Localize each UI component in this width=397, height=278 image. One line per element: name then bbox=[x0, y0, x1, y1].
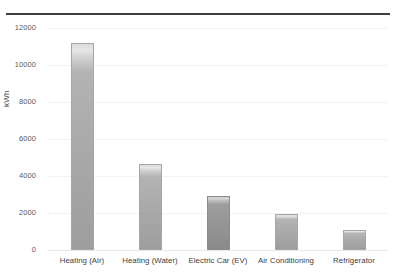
x-axis-category-labels: Heating (Air)Heating (Water)Electric Car… bbox=[48, 256, 388, 274]
bar-1 bbox=[71, 43, 94, 250]
y-tick-label: 2000 bbox=[0, 209, 36, 217]
y-tick-label: 0 bbox=[0, 246, 36, 254]
x-tick-label: Electric Car (EV) bbox=[184, 256, 252, 274]
bar-2 bbox=[139, 164, 162, 250]
plot-area: 020004000600080001000012000 bbox=[48, 20, 388, 252]
gridline bbox=[48, 176, 388, 177]
x-tick-label: Air Conditioning bbox=[252, 256, 320, 274]
y-tick-label: 6000 bbox=[0, 135, 36, 143]
gridline bbox=[48, 65, 388, 66]
y-tick-label: 8000 bbox=[0, 98, 36, 106]
gridline bbox=[48, 102, 388, 103]
y-tick-label: 10000 bbox=[0, 61, 36, 69]
y-tick-label: 4000 bbox=[0, 172, 36, 180]
y-tick-label: 12000 bbox=[0, 24, 36, 32]
bar-3 bbox=[207, 196, 230, 250]
gridline bbox=[48, 28, 388, 29]
bar-chart: kWh 020004000600080001000012000 Heating … bbox=[0, 0, 397, 278]
x-tick-label: Heating (Air) bbox=[48, 256, 116, 274]
top-divider-rule bbox=[6, 13, 390, 15]
bar-5 bbox=[343, 230, 366, 250]
bar-4 bbox=[275, 214, 298, 250]
gridline bbox=[48, 250, 388, 251]
x-tick-label: Heating (Water) bbox=[116, 256, 184, 274]
x-tick-label: Refrigerator bbox=[320, 256, 388, 274]
gridline bbox=[48, 139, 388, 140]
